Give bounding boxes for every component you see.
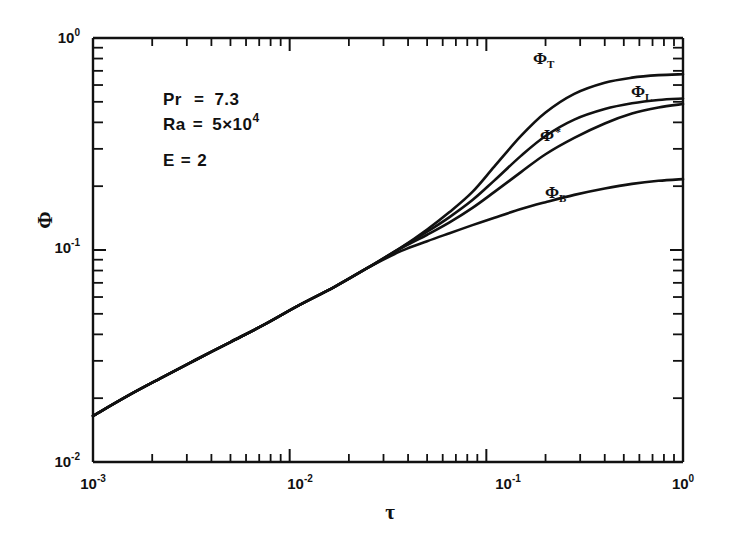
curve-label-phi-t: ΦT — [533, 49, 555, 70]
curve-label-phi-star: Φ* — [540, 125, 561, 145]
x-axis-title: τ — [385, 500, 395, 524]
y-axis-title: Φ — [33, 211, 57, 228]
x-tick-label-1e-2: 10-2 — [287, 473, 313, 492]
figure-container: 100 10-1 10-2 10-3 10-2 10-1 100 — [0, 0, 750, 533]
annotation-prandtl: Pr=7.3 — [163, 90, 240, 109]
y-tick-labels: 100 10-1 10-2 — [54, 27, 80, 470]
annotation-e: E=2 — [163, 151, 207, 170]
x-tick-label-1e-3: 10-3 — [80, 473, 106, 492]
y-tick-label-1e-1: 10-1 — [54, 237, 80, 256]
parameter-annotations: Pr=7.3 Ra=5×104 E=2 — [163, 90, 260, 170]
log-log-plot: 100 10-1 10-2 10-3 10-2 10-1 100 — [0, 0, 750, 533]
y-tick-label-1e0: 100 — [58, 27, 81, 46]
curve-label-phi-b: ΦB — [545, 183, 567, 204]
curve-label-phi-l: ΦL — [631, 82, 652, 103]
curve-labels: ΦT ΦL Φ* ΦB — [533, 49, 652, 204]
x-tick-label-1e0: 100 — [672, 473, 695, 492]
y-tick-label-1e-2: 10-2 — [54, 451, 80, 470]
x-tick-labels: 10-3 10-2 10-1 100 — [80, 473, 694, 492]
curve-3 — [93, 179, 683, 416]
annotation-rayleigh: Ra=5×104 — [163, 111, 260, 134]
x-tick-label-1e-1: 10-1 — [495, 473, 521, 492]
